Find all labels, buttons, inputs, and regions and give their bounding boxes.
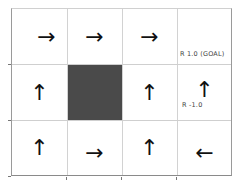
axis-tick	[8, 176, 11, 177]
cell-r1-c2: ↑	[122, 65, 177, 120]
arrow-up-icon: ↑	[30, 82, 48, 104]
cell-r0-c2: →	[122, 9, 177, 65]
arrow-up-icon: ↑	[195, 79, 213, 101]
cell-r0-c0: →	[12, 9, 67, 65]
cell-r2-c0: ↑	[12, 120, 67, 176]
cell-r1-c0: ↑	[12, 65, 67, 120]
penalty-reward-label: R -1.0	[182, 101, 202, 109]
axis-tick	[8, 120, 11, 121]
cell-r2-c3: ←	[177, 120, 232, 176]
wall-cell	[68, 65, 122, 120]
arrow-up-icon: ↑	[140, 137, 158, 159]
cell-r2-c2: ↑	[122, 120, 177, 176]
cell-r2-c1: →	[67, 120, 122, 176]
arrow-left-icon: ←	[195, 142, 213, 164]
arrow-up-icon: ↑	[140, 82, 158, 104]
axis-tick	[176, 177, 177, 180]
arrow-right-icon: →	[85, 142, 103, 164]
axis-tick	[66, 177, 67, 180]
goal-reward-label: R 1.0 (GOAL)	[180, 50, 225, 58]
arrow-right-icon: →	[140, 26, 158, 48]
axis-tick	[8, 64, 11, 65]
arrow-right-icon: →	[37, 26, 55, 48]
arrow-right-icon: →	[85, 26, 103, 48]
cell-r1-c3: ↑ R -1.0	[177, 65, 232, 120]
arrow-up-icon: ↑	[30, 137, 48, 159]
cell-r0-c3-goal: R 1.0 (GOAL)	[177, 9, 232, 65]
axis-tick	[121, 177, 122, 180]
cell-r0-c1: →	[67, 9, 122, 65]
gridworld: → → → R 1.0 (GOAL) ↑ ↑ ↑ R -1.0 ↑ → ↑ ←	[11, 8, 232, 176]
